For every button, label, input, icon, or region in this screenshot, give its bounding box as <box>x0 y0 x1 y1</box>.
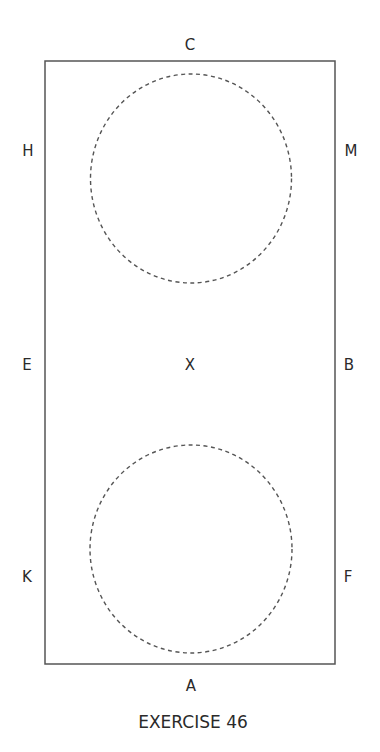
letter-k: K <box>22 568 33 586</box>
letter-b: B <box>344 356 354 374</box>
dressage-arena-diagram: C H M E X B K F A EXERCISE 46 <box>0 0 380 752</box>
letter-a: A <box>186 677 197 695</box>
exercise-caption: EXERCISE 46 <box>138 712 248 732</box>
letter-x: X <box>185 356 195 374</box>
upper-circle <box>91 74 292 283</box>
letter-f: F <box>344 568 353 586</box>
letter-c: C <box>185 36 195 54</box>
letter-e: E <box>22 356 31 374</box>
letter-h: H <box>22 142 33 160</box>
lower-circle <box>90 445 292 653</box>
letter-m: M <box>345 142 358 160</box>
